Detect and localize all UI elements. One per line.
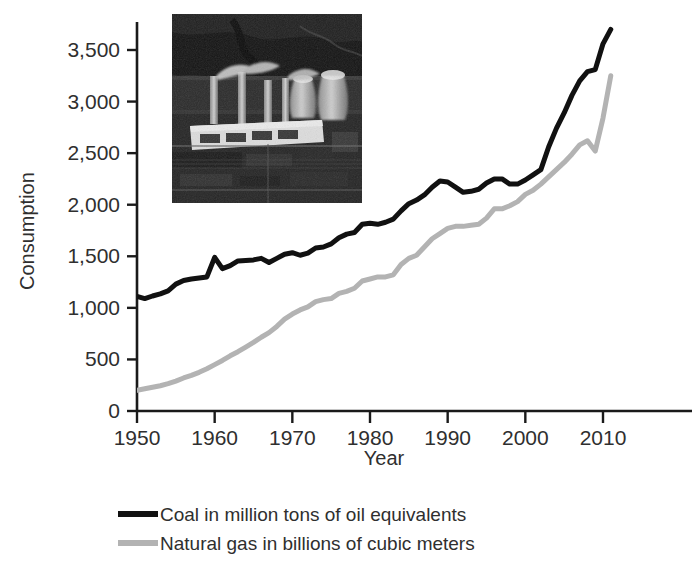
chart-legend: Coal in million tons of oil equivalentsN…: [118, 504, 475, 554]
x-tick-label: 1960: [191, 426, 238, 449]
y-tick-label: 2,500: [67, 141, 120, 164]
x-axis-ticks: [137, 411, 603, 423]
y-tick-label: 1,000: [67, 296, 120, 319]
y-tick-label: 3,500: [67, 38, 120, 61]
y-axis-tick-labels: 05001,0001,5002,0002,5003,0003,500: [67, 38, 120, 422]
chart-figure: 05001,0001,5002,0002,5003,0003,500 19501…: [0, 0, 696, 572]
x-tick-label: 1970: [269, 426, 316, 449]
y-tick-label: 500: [85, 347, 120, 370]
x-tick-label: 2000: [502, 426, 549, 449]
x-tick-label: 1990: [424, 426, 471, 449]
x-axis-title: Year: [364, 447, 405, 469]
y-tick-label: 3,000: [67, 90, 120, 113]
coal-power-plant-aerial-photo: [172, 14, 362, 203]
y-tick-label: 1,500: [67, 244, 120, 267]
y-tick-label: 2,000: [67, 193, 120, 216]
y-axis-title: Consumption: [16, 172, 38, 290]
legend-label-natural-gas: Natural gas in billions of cubic meters: [160, 533, 475, 554]
x-tick-label: 1950: [114, 426, 161, 449]
x-tick-label: 1980: [347, 426, 394, 449]
x-tick-label: 2010: [580, 426, 627, 449]
legend-label-coal: Coal in million tons of oil equivalents: [160, 504, 466, 525]
y-axis-ticks: [127, 50, 137, 411]
y-tick-label: 0: [108, 399, 120, 422]
x-axis-tick-labels: 1950196019701980199020002010: [114, 426, 627, 449]
